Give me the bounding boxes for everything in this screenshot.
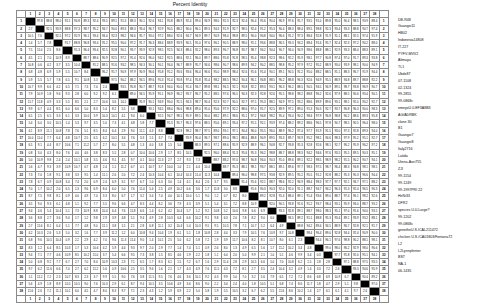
identity-cell: 98.8 [286,91,295,98]
identity-cell: 93.5 [119,83,128,90]
identity-cell: 97.2 [305,62,314,69]
diagonal-cell [258,200,267,207]
identity-cell: 92.5 [351,32,360,39]
identity-cell: 93.2 [360,215,369,222]
diagonal-cell [165,127,174,134]
identity-cell: 97.7 [323,178,332,185]
identity-cell: 90.2 [342,113,351,120]
diagonal-cell [351,273,360,280]
identity-cell: 95.8 [221,54,230,61]
divergence-cell: 6.8 [147,222,156,229]
column-header: 27 [268,11,277,18]
identity-cell: 94.8 [72,18,81,25]
identity-cell: 92.2 [286,54,295,61]
divergence-cell: 4.4 [44,142,53,149]
divergence-cell: 5.4 [184,222,193,229]
row-index: 2 [379,25,388,32]
row-index: 20 [379,156,388,163]
identity-cell: 93.4 [91,47,100,54]
divergence-cell: 8.6 [295,280,304,287]
identity-cell: 94.4 [314,237,323,244]
divergence-cell: 8.8 [91,208,100,215]
divergence-cell: 10.4 [175,208,184,215]
column-footer: 21 [212,295,221,302]
divergence-cell: 5.8 [202,288,211,295]
identity-cell: 94.9 [193,32,202,39]
divergence-cell: 6.9 [258,208,267,215]
divergence-cell: 0.9 [202,244,211,251]
identity-cell: 97.9 [295,62,304,69]
identity-cell: 90.1 [268,69,277,76]
identity-cell: 94.0 [286,47,295,54]
identity-cell: 89.1 [295,208,304,215]
identity-cell: 90.1 [147,98,156,105]
matrix-row: 211.64.79.33.910.910.70.74.82.41.111.26.… [17,164,389,171]
identity-cell: 92.5 [156,113,165,120]
divergence-cell: 10.2 [286,244,295,251]
sequence-name: 99-1997PRI 22 [398,187,452,194]
divergence-cell: 5.4 [212,200,221,207]
divergence-cell: 1.8 [249,280,258,287]
identity-cell: 88.8 [314,215,323,222]
identity-cell: 90.9 [137,69,146,76]
divergence-cell: 8.7 [54,142,63,149]
identity-cell: 94.4 [165,62,174,69]
identity-cell: 90.3 [268,186,277,193]
identity-cell: 94.4 [100,32,109,39]
identity-cell: 94.5 [323,222,332,229]
identity-cell: 89.1 [109,18,118,25]
identity-cell: 92.9 [240,142,249,149]
identity-cell: 90.7 [370,83,379,90]
row-header: 36 [17,273,26,280]
identity-cell: 89.1 [277,164,286,171]
identity-cell: 88.4 [286,193,295,200]
identity-cell: 96.3 [333,186,342,193]
divergence-cell: 9.0 [202,193,211,200]
matrix-row: 139.96.74.48.56.06.65.08.35.48.25.53.893… [17,105,389,112]
divergence-cell: 7.0 [63,266,72,273]
matrix-row: 359.76.211.66.67.02.76.211.25.60.910.62.… [17,266,389,273]
identity-matrix: 1234567891011121314151617181920212223242… [16,10,389,303]
identity-cell: 97.1 [360,178,369,185]
sequence-name: L2 [398,241,452,248]
matrix-row: 41.45.77.891.788.896.893.491.295.590.097… [17,40,389,47]
divergence-cell: 2.6 [360,288,369,295]
divergence-cell: 10.9 [63,251,72,258]
row-header: 35 [17,266,26,273]
identity-cell: 89.6 [286,156,295,163]
divergence-cell: 6.8 [26,237,35,244]
identity-cell: 95.5 [109,40,118,47]
diagonal-cell [72,54,81,61]
divergence-cell: 9.6 [82,186,91,193]
divergence-cell: 4.6 [286,251,295,258]
identity-cell: 89.1 [370,47,379,54]
matrix-row: 279.44.65.410.45.17.310.98.810.46.47.611… [17,208,389,215]
divergence-cell: 7.0 [35,171,44,178]
divergence-cell: 10.8 [286,259,295,266]
sequence-name: Italy2716 [398,146,452,153]
identity-cell: 92.2 [193,47,202,54]
identity-cell: 88.7 [147,83,156,90]
divergence-cell: 5.1 [342,280,351,287]
identity-cell: 98.6 [212,62,221,69]
divergence-cell: 7.3 [109,120,118,127]
identity-cell: 97.6 [323,149,332,156]
divergence-cell: 2.6 [44,229,53,236]
divergence-cell: 6.6 [137,208,146,215]
identity-cell: 97.2 [63,32,72,39]
divergence-cell: 10.9 [249,200,258,207]
identity-cell: 89.3 [119,25,128,32]
divergence-cell: 1.1 [109,164,118,171]
divergence-cell: 5.5 [221,288,230,295]
divergence-cell: 2.6 [212,244,221,251]
divergence-cell: 3.3 [54,113,63,120]
divergence-cell: 11.1 [156,222,165,229]
identity-cell: 88.8 [351,259,360,266]
identity-cell: 91.4 [258,69,267,76]
divergence-cell: 5.4 [44,208,53,215]
identity-cell: 94.2 [305,149,314,156]
identity-cell: 89.5 [333,83,342,90]
divergence-cell: 1.7 [128,193,137,200]
divergence-cell: 4.0 [240,280,249,287]
identity-cell: 91.8 [193,76,202,83]
